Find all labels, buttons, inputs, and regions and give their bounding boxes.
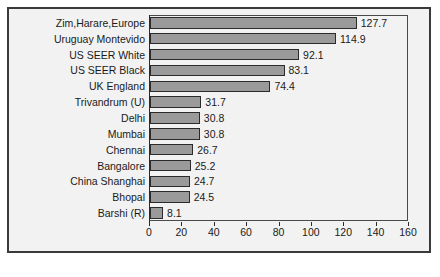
x-axis-tick-label: 140	[367, 227, 385, 238]
bar	[150, 112, 200, 123]
x-axis-tick-label: 60	[240, 227, 252, 238]
category-label: Trivandrum (U)	[75, 97, 145, 108]
category-label: US SEER White	[69, 49, 145, 60]
bar-value-label: 31.7	[205, 97, 225, 108]
bar-value-label: 8.1	[167, 208, 182, 219]
chart-row: US SEER Black83.1	[149, 63, 408, 79]
value-axis-line	[149, 15, 150, 222]
x-axis-tick-label: 40	[208, 227, 220, 238]
chart-row: Bangalore25.2	[149, 158, 408, 174]
bar-value-label: 92.1	[303, 49, 323, 60]
chart-row: China Shanghai24.7	[149, 173, 408, 189]
x-axis-tick-label: 0	[146, 227, 152, 238]
chart-row: Uruguay Montevido114.9	[149, 31, 408, 47]
bar-value-label: 83.1	[289, 65, 309, 76]
x-axis-tick-label: 20	[176, 227, 188, 238]
chart-row: UK England74.4	[149, 78, 408, 94]
bar-series: Zim,Harare,Europe127.7Uruguay Montevido1…	[149, 15, 408, 221]
category-label: Bangalore	[97, 160, 145, 171]
figure-caption	[0, 262, 440, 277]
category-label: Chennai	[106, 144, 145, 155]
x-axis: 020406080100120140160	[149, 222, 408, 248]
chart-row: Mumbai30.8	[149, 126, 408, 142]
bar-value-label: 24.5	[194, 192, 214, 203]
bar-value-label: 25.2	[195, 160, 215, 171]
category-label: Zim,Harare,Europe	[56, 18, 145, 29]
bar	[150, 176, 190, 187]
bar	[150, 144, 193, 155]
chart-row: Bhopal24.5	[149, 189, 408, 205]
bar-value-label: 26.7	[197, 144, 217, 155]
bar-value-label: 24.7	[194, 176, 214, 187]
category-label: UK England	[89, 81, 145, 92]
bar	[150, 17, 357, 28]
x-axis-tick-label: 80	[273, 227, 285, 238]
bar	[150, 128, 200, 139]
category-label: Mumbai	[108, 129, 145, 140]
chart-row: Chennai26.7	[149, 142, 408, 158]
chart-row: Zim,Harare,Europe127.7	[149, 15, 408, 31]
bar	[150, 49, 299, 60]
category-label: Delhi	[121, 113, 145, 124]
bar	[150, 81, 270, 92]
bar-value-label: 30.8	[204, 113, 224, 124]
chart-figure: Zim,Harare,Europe127.7Uruguay Montevido1…	[7, 7, 431, 253]
bar-value-label: 30.8	[204, 129, 224, 140]
category-label: US SEER Black	[70, 65, 145, 76]
category-label: Barshi (R)	[98, 208, 145, 219]
bar	[150, 191, 190, 202]
bar-value-label: 114.9	[340, 34, 366, 45]
bar	[150, 96, 201, 107]
bar	[150, 160, 191, 171]
category-label: Bhopal	[112, 192, 145, 203]
bar-value-label: 74.4	[274, 81, 294, 92]
category-label: Uruguay Montevido	[54, 34, 145, 45]
chart-row: Delhi30.8	[149, 110, 408, 126]
chart-row: Barshi (R)8.1	[149, 205, 408, 221]
x-axis-tick-label: 160	[399, 227, 417, 238]
bar-value-label: 127.7	[361, 18, 387, 29]
x-axis-tick-label: 120	[334, 227, 352, 238]
bar	[150, 207, 163, 218]
chart-row: Trivandrum (U)31.7	[149, 94, 408, 110]
category-label: China Shanghai	[70, 176, 145, 187]
bar	[150, 33, 336, 44]
chart-row: US SEER White92.1	[149, 47, 408, 63]
x-axis-tick-label: 100	[302, 227, 320, 238]
bar	[150, 65, 285, 76]
